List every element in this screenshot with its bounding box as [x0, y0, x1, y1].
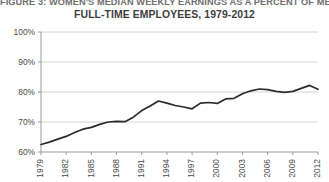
- x-tick-label: 2006: [262, 159, 272, 178]
- x-tick-label: 1991: [136, 159, 146, 178]
- x-tick-label: 2012: [312, 159, 322, 178]
- gridlines: [41, 32, 318, 122]
- x-tick-label: 1979: [35, 159, 45, 178]
- data-series-line: [41, 85, 318, 144]
- y-tick-labels: 60%70%80%90%100%: [14, 27, 41, 157]
- x-tick-label: 2003: [237, 159, 247, 178]
- y-tick-label: 90%: [18, 57, 35, 67]
- x-tick-label: 2000: [211, 159, 221, 178]
- x-tick-label: 2009: [287, 159, 297, 178]
- y-tick-label: 60%: [18, 147, 35, 157]
- y-tick-label: 70%: [18, 117, 35, 127]
- plot-area: 60%70%80%90%100% 19791982198519881991199…: [0, 0, 329, 182]
- x-tick-label: 1988: [111, 159, 121, 178]
- y-tick-label: 80%: [18, 87, 35, 97]
- x-tick-labels: 1979198219851988199119941997200020032006…: [35, 159, 322, 178]
- y-tick-label: 100%: [14, 27, 36, 37]
- x-tick-label: 1985: [86, 159, 96, 178]
- figure-container: FIGURE 3: WOMEN'S MEDIAN WEEKLY EARNINGS…: [0, 0, 329, 182]
- x-tick-label: 1982: [60, 159, 70, 178]
- line-chart: 60%70%80%90%100% 19791982198519881991199…: [0, 0, 329, 182]
- x-tick-label: 1994: [161, 159, 171, 178]
- x-tick-label: 1997: [186, 159, 196, 178]
